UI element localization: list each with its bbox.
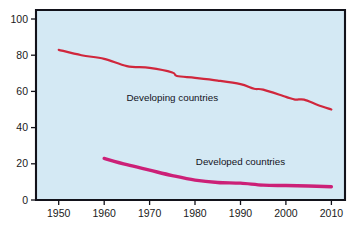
x-axis-tick-labels: 1950196019701980199020002010 xyxy=(47,207,343,219)
series-label-1: Developed countries xyxy=(196,156,285,167)
series-label-0: Developing countries xyxy=(127,92,219,103)
x-tick-label-1990: 1990 xyxy=(229,207,253,219)
y-tick-label-40: 40 xyxy=(16,121,28,133)
plot-background xyxy=(36,10,345,200)
x-tick-label-1950: 1950 xyxy=(47,207,71,219)
y-tick-label-0: 0 xyxy=(22,194,28,206)
y-tick-label-20: 20 xyxy=(16,157,28,169)
chart-figure: 020406080100 195019601970198019902000201… xyxy=(0,0,363,231)
x-tick-label-2010: 2010 xyxy=(320,207,344,219)
x-tick-label-2000: 2000 xyxy=(274,207,298,219)
y-tick-label-60: 60 xyxy=(16,85,28,97)
y-tick-label-100: 100 xyxy=(10,13,28,25)
x-tick-label-1960: 1960 xyxy=(93,207,117,219)
x-tick-label-1970: 1970 xyxy=(138,207,162,219)
y-tick-label-80: 80 xyxy=(16,49,28,61)
x-tick-label-1980: 1980 xyxy=(183,207,207,219)
line-chart: 020406080100 195019601970198019902000201… xyxy=(0,0,363,231)
y-axis-tick-labels: 020406080100 xyxy=(10,13,28,206)
